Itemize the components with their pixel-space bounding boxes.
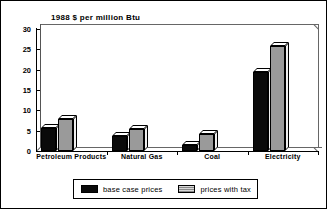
bar-base-case bbox=[253, 72, 268, 151]
y-axis-tick bbox=[36, 110, 40, 111]
bar-with-tax bbox=[270, 46, 285, 151]
y-axis-tick bbox=[36, 151, 40, 152]
y-axis-tick-label: 15 bbox=[9, 86, 31, 95]
x-axis-category-label: Coal bbox=[177, 153, 248, 160]
chart-title: 1988 $ per million Btu bbox=[51, 13, 140, 22]
bar-base-case bbox=[112, 136, 127, 151]
legend-label: prices with tax bbox=[200, 185, 251, 194]
chart-frame: 1988 $ per million Btu 051015202530 Petr… bbox=[0, 0, 327, 209]
y-axis-tick bbox=[36, 90, 40, 91]
legend-swatch-with-tax-icon bbox=[178, 185, 195, 193]
legend-item[interactable]: base case prices bbox=[81, 185, 162, 194]
legend-item[interactable]: prices with tax bbox=[178, 185, 251, 194]
y-axis-tick-label: 5 bbox=[9, 127, 31, 136]
bar-with-tax bbox=[199, 134, 214, 151]
chart-legend: base case prices prices with tax bbox=[73, 179, 258, 199]
y-axis-tick-label: 30 bbox=[9, 25, 31, 34]
x-axis-category-label: Electricity bbox=[248, 153, 319, 160]
y-axis-tick bbox=[36, 70, 40, 71]
bar-with-tax bbox=[129, 129, 144, 151]
bar-with-tax bbox=[58, 119, 73, 151]
plot-corner-top-right bbox=[314, 24, 322, 32]
x-axis-tick bbox=[318, 151, 319, 155]
x-axis-category-label: Petroleum Products bbox=[36, 153, 107, 160]
bar-base-case bbox=[41, 128, 56, 151]
legend-label: base case prices bbox=[103, 185, 162, 194]
y-axis-tick bbox=[36, 49, 40, 50]
plot-back-wall-top bbox=[40, 24, 318, 25]
y-axis-tick bbox=[36, 131, 40, 132]
bar-base-case bbox=[182, 145, 197, 151]
y-axis-tick bbox=[36, 29, 40, 30]
plot-area: 1988 $ per million Btu 051015202530 Petr… bbox=[1, 1, 326, 208]
y-axis-tick-label: 0 bbox=[9, 147, 31, 156]
legend-swatch-base-case-icon bbox=[81, 185, 98, 193]
y-axis-tick-label: 20 bbox=[9, 66, 31, 75]
plot-back-wall-right bbox=[318, 24, 319, 148]
y-axis-tick-label: 10 bbox=[9, 106, 31, 115]
y-axis-tick-label: 25 bbox=[9, 45, 31, 54]
x-axis-category-label: Natural Gas bbox=[107, 153, 178, 160]
